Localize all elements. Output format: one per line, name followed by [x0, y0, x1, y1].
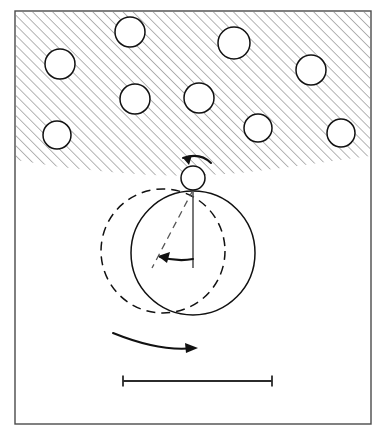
figure-root — [0, 0, 384, 433]
diagram-canvas — [0, 0, 384, 433]
grain-circle — [43, 121, 71, 149]
grain-circle — [184, 83, 214, 113]
grain-circle — [45, 49, 75, 79]
grain-circle — [296, 55, 326, 85]
grain-circle — [327, 119, 355, 147]
grain-circle — [115, 17, 145, 47]
grain-circle — [218, 27, 250, 59]
grain-circle — [120, 84, 150, 114]
contact-particle-circle — [181, 166, 205, 190]
grain-circle — [244, 114, 272, 142]
